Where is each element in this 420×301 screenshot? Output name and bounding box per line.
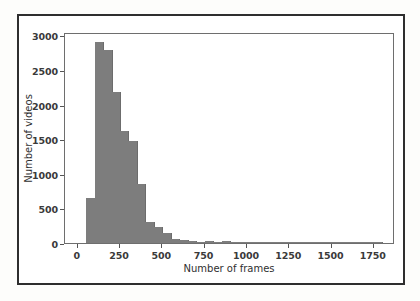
histogram-chart: Number of videos 05001000150020002500300… — [19, 16, 403, 283]
x-axis-tick — [373, 244, 374, 248]
x-axis-tick-label: 750 — [194, 250, 214, 261]
x-axis-tick-label: 0 — [73, 250, 80, 261]
y-axis-tick — [60, 244, 64, 245]
y-axis-tick-label: 2500 — [32, 66, 58, 77]
x-axis-tick-label: 1000 — [233, 250, 259, 261]
y-axis-tick-label: 1500 — [32, 135, 58, 146]
figure-frame: Number of videos 05001000150020002500300… — [17, 14, 405, 285]
x-axis-tick — [119, 244, 120, 248]
y-axis-tick-label: 1000 — [32, 169, 58, 180]
x-axis-tick-label: 250 — [109, 250, 129, 261]
x-axis-tick-label: 1500 — [318, 250, 344, 261]
x-axis-tick — [288, 244, 289, 248]
y-axis-tick-label: 500 — [38, 204, 58, 215]
x-axis-tick — [161, 244, 162, 248]
plot-area — [64, 33, 394, 244]
y-axis-tick-label: 2000 — [32, 100, 58, 111]
histogram-bar — [374, 242, 383, 243]
histogram-bars — [65, 34, 393, 243]
y-axis-tick-label: 3000 — [32, 31, 58, 42]
x-axis-tick — [246, 244, 247, 248]
x-axis-title: Number of frames — [64, 263, 394, 274]
x-axis-tick-label: 500 — [152, 250, 172, 261]
x-axis-title-text: Number of frames — [183, 263, 274, 274]
x-axis-tick — [204, 244, 205, 248]
x-axis-tick — [77, 244, 78, 248]
x-axis-tick — [331, 244, 332, 248]
x-axis-tick-label: 1250 — [275, 250, 301, 261]
y-axis-tick-label: 0 — [51, 239, 58, 250]
x-axis-tick-label: 1750 — [360, 250, 386, 261]
